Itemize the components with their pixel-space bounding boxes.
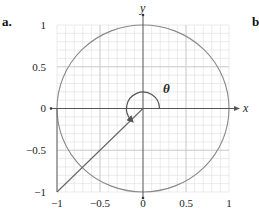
x-axis-left-dot [50,107,53,110]
y-tick-label: 0.5 [32,61,46,73]
y-tick-label: −0.5 [26,144,46,156]
unit-circle-diagram: a. b [0,0,259,210]
x-tick-label: 0 [140,197,146,209]
theta-label: θ [163,81,170,96]
plot-svg: y x θ 1 0.5 0 −0.5 −1 −1 −0.5 0 0.5 1 [0,0,259,210]
x-axis-arrow-icon [234,106,240,111]
y-tick-label: 1 [41,19,47,31]
x-tick-label: 0.5 [179,197,193,209]
x-tick-label: −1 [51,197,63,209]
x-tick-label: 1 [226,197,232,209]
x-axis-label: x [242,101,249,115]
x-tick-label: −0.5 [90,197,110,209]
y-tick-label: −1 [34,186,46,198]
y-tick-label: 0 [41,102,47,114]
y-axis-label: y [139,1,146,15]
